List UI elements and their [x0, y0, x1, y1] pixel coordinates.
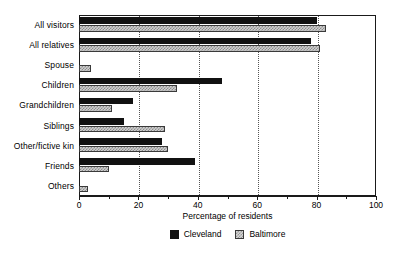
category-label-spouse: Spouse [45, 61, 74, 70]
x-tick-minor-50 [228, 196, 229, 199]
category-row-all-relatives: All relatives [79, 35, 376, 55]
legend-swatch-baltimore-icon [235, 230, 244, 239]
x-tick-label-100: 100 [369, 201, 383, 210]
bar-cleveland-children [79, 78, 222, 85]
bar-cleveland-siblings [79, 118, 124, 125]
category-label-all-visitors: All visitors [35, 21, 74, 30]
x-tick-label-20: 20 [134, 201, 143, 210]
legend-swatch-cleveland-icon [170, 230, 179, 239]
bar-baltimore-children [79, 85, 177, 92]
x-tick-minor-70 [287, 196, 288, 199]
bar-baltimore-others [79, 186, 88, 193]
bar-cleveland-all-relatives [79, 38, 311, 45]
chart-legend: Cleveland Baltimore [79, 230, 376, 239]
category-label-grandchildren: Grandchildren [19, 101, 74, 110]
bar-baltimore-all-relatives [79, 45, 320, 52]
bar-baltimore-spouse [79, 65, 91, 72]
x-axis-title: Percentage of residents [79, 212, 376, 221]
bar-baltimore-grandchildren [79, 105, 112, 112]
category-label-all-relatives: All relatives [29, 41, 74, 50]
bar-baltimore-all-visitors [79, 25, 326, 32]
x-tick-minor-90 [346, 196, 347, 199]
x-tick-label-40: 40 [193, 201, 202, 210]
bar-cleveland-grandchildren [79, 98, 133, 105]
category-label-other-fictive-kin: Other/fictive kin [14, 141, 74, 150]
bar-baltimore-other-fictive-kin [79, 146, 168, 153]
category-row-all-visitors: All visitors [79, 15, 376, 35]
category-row-grandchildren: Grandchildren [79, 95, 376, 115]
x-tick-minor-10 [109, 196, 110, 199]
bar-baltimore-friends [79, 166, 109, 173]
legend-item-baltimore: Baltimore [235, 230, 285, 239]
category-label-siblings: Siblings [43, 121, 74, 130]
category-label-children: Children [42, 81, 74, 90]
x-tick-label-0: 0 [77, 201, 82, 210]
category-label-friends: Friends [45, 162, 74, 171]
category-row-other-fictive-kin: Other/fictive kin [79, 136, 376, 156]
x-tick-minor-30 [168, 196, 169, 199]
x-tick-label-60: 60 [252, 201, 261, 210]
bar-rows: All visitors All relatives Spouse Childr… [79, 15, 376, 196]
category-row-children: Children [79, 75, 376, 95]
bar-baltimore-siblings [79, 126, 165, 133]
bar-cleveland-other-fictive-kin [79, 138, 162, 145]
x-tick-label-80: 80 [312, 201, 321, 210]
category-row-siblings: Siblings [79, 116, 376, 136]
bar-cleveland-all-visitors [79, 17, 317, 24]
bar-cleveland-friends [79, 158, 195, 165]
category-row-friends: Friends [79, 156, 376, 176]
legend-label-cleveland: Cleveland [184, 230, 222, 239]
category-row-others: Others [79, 176, 376, 196]
bar-chart: All visitors All relatives Spouse Childr… [0, 0, 414, 255]
category-row-spouse: Spouse [79, 55, 376, 75]
legend-label-baltimore: Baltimore [249, 230, 285, 239]
legend-item-cleveland: Cleveland [170, 230, 222, 239]
category-label-others: Others [48, 182, 74, 191]
